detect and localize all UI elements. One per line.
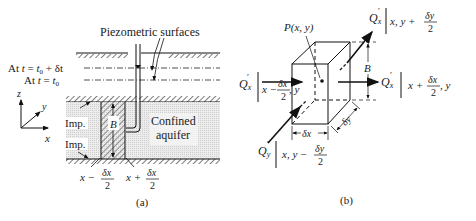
flux-in-y-arrow — [268, 107, 300, 143]
svg-text:x −: x − — [261, 83, 277, 95]
svg-text:′: ′ — [267, 139, 269, 149]
z-axis-label: z — [16, 88, 21, 99]
right-bound-num: δx — [147, 167, 157, 178]
aquifer-label-line2: aquifer — [156, 128, 190, 142]
svg-text:2: 2 — [318, 156, 323, 167]
flux-right-label: Qx ′ x + δx 2 , y — [381, 70, 451, 98]
level-t0-label: At t = t0 — [24, 74, 60, 88]
figure-b: P(x, y) B δx δy Qx ′ x − — [239, 6, 451, 207]
figure-canvas: Piezometric surfaces At t = t0 + δt At t… — [0, 0, 476, 221]
flux-bottom-label: Qy ′ x, y − δy 2 — [258, 139, 327, 168]
lower-confining-layer — [66, 159, 220, 164]
svg-text:′: ′ — [247, 72, 249, 82]
x-axis-label: x — [44, 132, 50, 144]
ground-surface — [76, 53, 220, 58]
svg-text:x, y +: x, y + — [389, 15, 415, 27]
control-volume-box — [292, 42, 350, 124]
svg-text:, y: , y — [289, 83, 300, 95]
svg-text:′: ′ — [390, 70, 392, 80]
svg-text:δy: δy — [425, 10, 435, 21]
left-bound-num: δx — [102, 167, 112, 178]
imp-top-label: Imp. — [65, 117, 86, 129]
left-bound-den: 2 — [105, 180, 110, 191]
imp-bottom-label: Imp. — [65, 138, 86, 150]
figure-a: Piezometric surfaces At t = t0 + δt At t… — [8, 25, 220, 209]
caption-b: (b) — [340, 194, 353, 207]
flux-left-label: Qx ′ x − δx 2 , y — [239, 72, 300, 102]
flux-top-label: Qx ′ x, y + δy 2 — [369, 6, 437, 34]
right-bound-den: 2 — [150, 180, 155, 191]
svg-text:Qx: Qx — [239, 77, 252, 92]
svg-text:2: 2 — [431, 87, 436, 98]
aquifer-label-line1: Confined — [151, 114, 196, 128]
svg-text:2: 2 — [281, 91, 286, 102]
upper-confining-layer — [66, 96, 220, 102]
y-axis-label: y — [41, 101, 47, 112]
point-p — [320, 79, 324, 83]
right-bound-lead: x + — [125, 171, 141, 183]
svg-text:x +: x + — [407, 79, 423, 91]
svg-text:δy: δy — [315, 143, 325, 154]
svg-text:x, y −: x, y − — [281, 148, 307, 160]
svg-text:′: ′ — [378, 6, 380, 16]
dx-label: δx — [302, 128, 312, 139]
left-bound-lead: x − — [79, 171, 95, 183]
svg-text:, y: , y — [440, 79, 451, 91]
point-p-label: P(x, y) — [283, 21, 314, 34]
caption-a: (a) — [136, 196, 149, 209]
thickness-b-label: B — [110, 118, 117, 130]
thickness-b-label: B — [364, 62, 371, 74]
svg-text:2: 2 — [428, 23, 433, 34]
piezometric-surfaces-label: Piezometric surfaces — [100, 25, 200, 39]
svg-text:δx: δx — [428, 74, 438, 85]
svg-text:δx: δx — [278, 78, 288, 89]
